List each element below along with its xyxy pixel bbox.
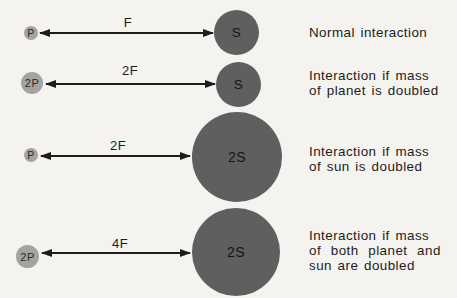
- force-arrow: [42, 252, 190, 254]
- planet-circle: 2P: [16, 245, 39, 268]
- force-label: 2F: [90, 139, 146, 153]
- caption-line: of planet is doubled: [309, 83, 445, 98]
- caption-line: of sun is doubled: [309, 159, 445, 174]
- caption: Interaction if mass of sun is doubled: [309, 144, 445, 174]
- caption-line: of both planet and: [309, 243, 445, 258]
- sun-circle: S: [214, 10, 259, 55]
- caption-line: Normal interaction: [309, 25, 445, 40]
- caption: Normal interaction: [309, 25, 445, 40]
- force-label: 2F: [102, 64, 158, 78]
- planet-circle: 2P: [21, 72, 43, 94]
- planet-circle: P: [24, 26, 38, 40]
- sun-circle: 2S: [192, 208, 280, 296]
- sun-circle: 2S: [192, 112, 282, 202]
- caption: Interaction if mass of both planet and s…: [309, 228, 445, 273]
- force-label: 4F: [92, 237, 148, 251]
- gravitational-interaction-figure: P F S Normal interaction 2P 2F S Interac…: [0, 0, 457, 298]
- caption-line: Interaction if mass: [309, 228, 445, 243]
- caption-line: Interaction if mass: [309, 68, 445, 83]
- force-arrow: [40, 32, 213, 34]
- caption-line: sun are doubled: [309, 258, 445, 273]
- force-arrow: [46, 83, 215, 85]
- sun-circle: S: [216, 62, 261, 107]
- planet-circle: P: [24, 148, 38, 162]
- force-label: F: [100, 16, 156, 30]
- force-arrow: [41, 155, 190, 157]
- caption: Interaction if mass of planet is doubled: [309, 68, 445, 98]
- caption-line: Interaction if mass: [309, 144, 445, 159]
